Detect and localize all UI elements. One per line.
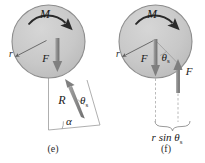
- force-label-e: F: [41, 52, 49, 64]
- figure-canvas: M r F R θs α (e): [0, 0, 205, 163]
- moment-label-f: M: [146, 7, 158, 21]
- caption-f: (f): [161, 143, 171, 155]
- radius-label-f: r: [116, 49, 120, 59]
- moment-label-e: M: [39, 7, 51, 21]
- force-label-outer-f: F: [185, 65, 193, 77]
- physics-figure: M r F R θs α (e): [0, 0, 205, 163]
- force-label-inner-f: F: [140, 52, 148, 64]
- radius-label-e: r: [9, 49, 13, 59]
- reaction-label-e: R: [57, 93, 66, 107]
- caption-e: (e): [47, 143, 58, 155]
- alpha-label-e: α: [66, 115, 72, 127]
